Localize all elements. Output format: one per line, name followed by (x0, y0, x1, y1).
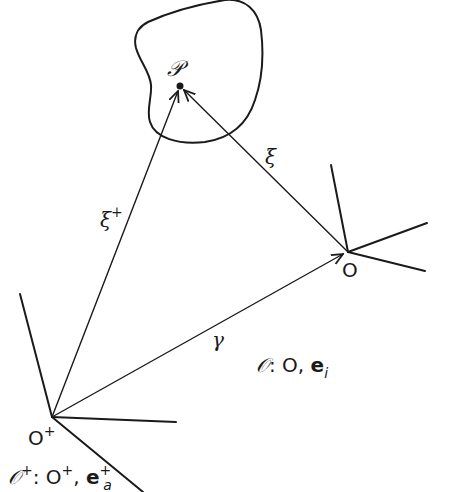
vector-gamma (52, 254, 343, 417)
xi-plus-label: ξ+ (100, 204, 123, 232)
gamma-label: γ (212, 328, 224, 352)
origin-o-plus-label: O+ (28, 423, 55, 450)
frame-o-plus-label: 𝒪+: O+, e+a (8, 462, 112, 492)
body-region-outline (135, 0, 262, 143)
frame-o-axes (331, 165, 427, 271)
body-label: 𝒫 (167, 56, 189, 81)
diagram-canvas: 𝒫 O O+ ξ+ ξ γ 𝒪: O, ei 𝒪+: O+, e+a (0, 0, 458, 492)
origin-o-label: O (342, 258, 358, 282)
xi-label: ξ (265, 145, 277, 169)
vector-xi-plus (52, 91, 178, 417)
frame-o-label: 𝒪: O, ei (256, 353, 328, 381)
point-p (177, 83, 184, 90)
frame-o-plus-axes (20, 294, 176, 492)
vector-xi (184, 90, 348, 252)
